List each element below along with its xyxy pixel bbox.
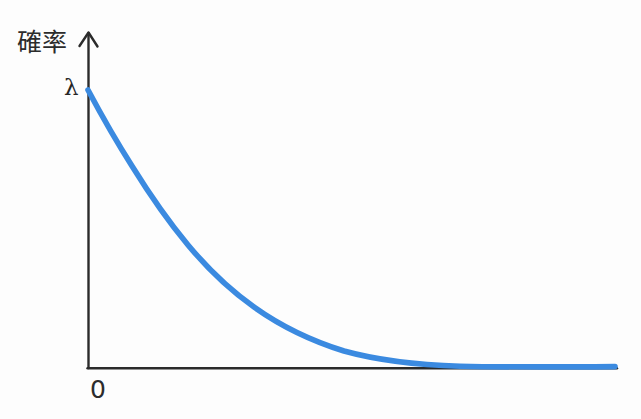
chart-canvas: 確率 λ 0 [0,0,641,419]
y-axis-title: 確率 [17,30,67,55]
origin-tick-label: 0 [90,377,106,402]
plot-area [0,0,641,419]
lambda-value-label: λ [64,76,79,99]
exponential-decay-curve [88,90,615,367]
